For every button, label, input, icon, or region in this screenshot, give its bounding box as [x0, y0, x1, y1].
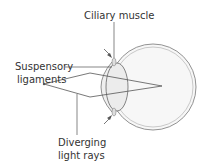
label-suspensory-line2: ligaments: [17, 74, 66, 86]
label-diverging-line1: Diverging: [58, 137, 106, 149]
label-diverging-line2: light rays: [58, 150, 105, 162]
label-suspensory-line1: Suspensory: [15, 61, 73, 73]
ciliary-muscle-top: [112, 58, 116, 66]
arrowhead-bottom: [107, 115, 112, 120]
arrowhead-top: [107, 53, 112, 58]
lens: [106, 63, 128, 111]
ciliary-muscle-bottom: [112, 108, 116, 116]
label-ciliary-muscle: Ciliary muscle: [84, 10, 154, 22]
